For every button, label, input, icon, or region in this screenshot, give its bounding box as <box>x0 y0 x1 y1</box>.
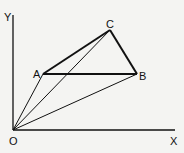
point-B-label: B <box>139 70 146 82</box>
segment-OB <box>13 74 137 130</box>
point-C-label: C <box>106 18 114 30</box>
geometry-diagram: Y X O A B C <box>0 0 184 153</box>
segment-CB <box>110 30 137 74</box>
segment-OA <box>13 74 43 130</box>
point-A-label: A <box>33 68 41 80</box>
y-axis-label: Y <box>4 11 12 23</box>
segment-AC <box>43 30 110 74</box>
x-axis-label: X <box>170 135 178 147</box>
segment-OC <box>13 30 110 130</box>
origin-label: O <box>9 135 18 147</box>
